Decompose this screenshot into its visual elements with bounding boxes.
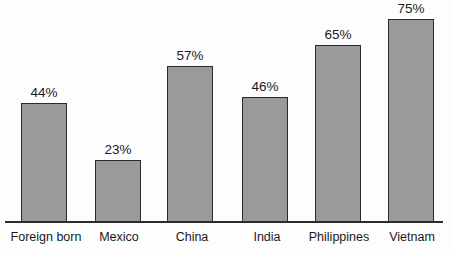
bar-group-1: 23% bbox=[95, 0, 141, 255]
bar-value-philippines: 65% bbox=[315, 27, 361, 42]
bar-group-5: 75% bbox=[388, 0, 434, 255]
bar-value-foreign-born: 44% bbox=[21, 85, 67, 100]
bar-group-3: 46% bbox=[242, 0, 288, 255]
bar-india bbox=[242, 97, 288, 222]
bar-vietnam bbox=[388, 19, 434, 222]
bar-group-2: 57% bbox=[167, 0, 213, 255]
bar-value-vietnam: 75% bbox=[388, 1, 434, 16]
bar-china bbox=[167, 66, 213, 222]
bar-value-mexico: 23% bbox=[95, 142, 141, 157]
plot-area: 44% 23% 57% 46% 65% 75% Foreign born Mex… bbox=[0, 0, 453, 255]
x-axis-line bbox=[5, 221, 443, 223]
bar-group-0: 44% bbox=[21, 0, 67, 255]
category-label-china: China bbox=[149, 230, 235, 245]
category-label-vietnam: Vietnam bbox=[371, 230, 453, 245]
bar-mexico bbox=[95, 160, 141, 222]
bar-value-china: 57% bbox=[167, 48, 213, 63]
bar-philippines bbox=[315, 45, 361, 222]
bar-value-india: 46% bbox=[242, 79, 288, 94]
bar-chart: 44% 23% 57% 46% 65% 75% Foreign born Mex… bbox=[0, 0, 453, 255]
bar-group-4: 65% bbox=[315, 0, 361, 255]
bar-foreign-born bbox=[21, 103, 67, 222]
